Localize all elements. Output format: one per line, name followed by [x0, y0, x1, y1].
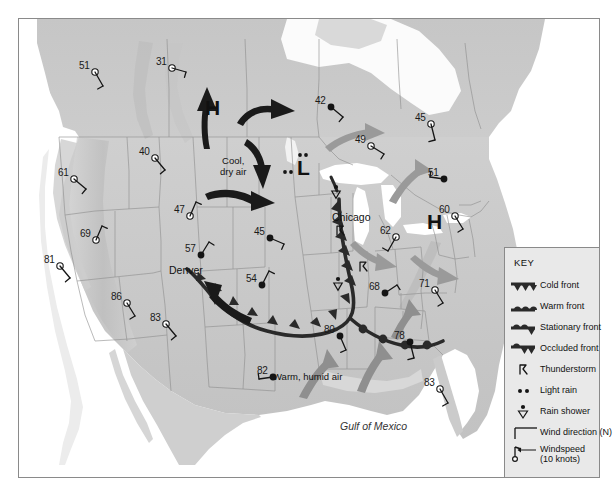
legend-label-line-1: Windspeed — [540, 444, 585, 454]
warm-pip — [514, 307, 521, 311]
legend-label-line-1: Wind direction (N) — [540, 427, 612, 437]
legend-symbol-windspeed — [509, 446, 539, 462]
legend-label-line-1: Stationary front — [540, 322, 601, 332]
legend-label-warm-front: Warm front — [540, 301, 584, 311]
high-pressure-center-northwest: H — [205, 97, 220, 118]
legend-label-windspeed: Windspeed(10 knots) — [540, 444, 585, 464]
station-temperature: 81 — [44, 255, 55, 265]
station-temperature: 82 — [257, 366, 268, 376]
airmass-line-1: Cool, — [220, 156, 246, 167]
warm-pip — [522, 307, 529, 311]
legend-item-windspeed: Windspeed(10 knots) — [509, 446, 600, 462]
station-temperature: 49 — [355, 135, 366, 145]
legend-item-warm-front: Warm front — [509, 299, 600, 315]
legend-label-thunderstorm: Thunderstorm — [540, 364, 596, 374]
station-temperature: 51 — [79, 61, 90, 71]
legend-label-wind-direction: Wind direction (N) — [540, 427, 612, 437]
legend-label-line-1: Light rain — [540, 385, 577, 395]
cold-front-icon — [509, 278, 539, 294]
station-temperature: 68 — [369, 282, 380, 292]
airmass-line-2: dry air — [220, 167, 246, 178]
cold-pip — [530, 285, 537, 291]
station-temperature: 86 — [111, 292, 122, 302]
legend-symbol-light-rain — [509, 383, 539, 399]
legend-item-wind-direction: Wind direction (N) — [509, 425, 600, 441]
city-label-denver: Denver — [169, 265, 203, 276]
legend-label-line-1: Rain shower — [540, 406, 590, 416]
warm-pip — [513, 325, 520, 329]
station-temperature: 51 — [428, 168, 439, 178]
cool-dry-air-label: Cool,dry air — [220, 156, 246, 177]
legend-label-line-1: Warm front — [540, 301, 584, 311]
station-temperature: 80 — [324, 325, 335, 335]
stationary-front-icon — [509, 320, 539, 336]
shower-dot — [334, 185, 338, 189]
legend-symbol-stationary-front — [509, 320, 539, 336]
low-pressure-center-midwest: L — [297, 157, 310, 178]
legend-label-rain-shower: Rain shower — [540, 406, 590, 416]
airmass-line-1: Warm, humid air — [273, 372, 342, 383]
legend-label-occluded-front: Occluded front — [540, 343, 599, 353]
cold-pip — [522, 285, 529, 291]
legend-label-light-rain: Light rain — [540, 385, 577, 395]
rain-dot-right — [525, 389, 529, 393]
legend-symbol-occluded-front — [509, 341, 539, 357]
station-temperature: 61 — [58, 168, 69, 178]
thunderstorm-glyph — [520, 365, 527, 374]
legend-item-stationary-front: Stationary front — [509, 320, 600, 336]
legend-symbol-cold-front — [509, 278, 539, 294]
station-temperature: 57 — [185, 244, 196, 254]
high-pressure-center-northeast: H — [427, 211, 442, 232]
warm-pip — [521, 325, 528, 329]
station-temperature: 83 — [150, 313, 161, 323]
station-temperature: 47 — [174, 205, 185, 215]
wind-direction-icon — [509, 425, 539, 441]
legend-item-thunderstorm: Thunderstorm — [509, 362, 600, 378]
rain-dot-right — [289, 170, 293, 174]
rain-dot-left — [283, 170, 287, 174]
cold-pip — [514, 285, 521, 291]
station-temperature: 42 — [315, 96, 326, 106]
legend-label-stationary-front: Stationary front — [540, 322, 601, 332]
light-rain-icon — [509, 383, 539, 399]
warm-front-icon — [509, 299, 539, 315]
legend-item-occluded-front: Occluded front — [509, 341, 600, 357]
cold-pip — [521, 348, 528, 354]
shower-dot — [336, 277, 340, 281]
rain-shower-icon — [509, 404, 539, 420]
legend-label-line-2: (10 knots) — [540, 454, 585, 464]
weather-map-page: 5131424540495161476062456957815471688683… — [0, 0, 616, 494]
station-temperature: 78 — [394, 331, 405, 341]
station-temperature: 83 — [424, 378, 435, 388]
occluded-front-icon — [509, 341, 539, 357]
city-label-chicago: Chicago — [332, 212, 371, 223]
thunderstorm-icon — [509, 362, 539, 378]
warm-pip — [513, 344, 520, 348]
legend-symbol-warm-front — [509, 299, 539, 315]
warm-humid-air-label: Warm, humid air — [273, 372, 342, 383]
station-temperature: 54 — [246, 274, 257, 284]
warm-pip — [530, 307, 537, 310]
legend-label-line-1: Thunderstorm — [540, 364, 596, 374]
station-temperature: 45 — [415, 113, 426, 123]
station-circle-open — [513, 457, 518, 462]
legend-item-cold-front: Cold front — [509, 278, 600, 294]
legend-label-line-1: Occluded front — [540, 343, 599, 353]
shower-dot — [521, 405, 525, 409]
station-temperature: 69 — [80, 229, 91, 239]
legend-symbol-wind-direction — [509, 425, 539, 441]
station-temperature: 31 — [156, 57, 167, 67]
legend-symbol-thunderstorm — [509, 362, 539, 378]
legend-label-line-1: Cold front — [540, 280, 579, 290]
windspeed-icon — [509, 446, 539, 462]
rain-dot-left — [518, 389, 522, 393]
legend-panel: KEY Cold frontWarm frontStationary front… — [504, 247, 599, 477]
legend-item-rain-shower: Rain shower — [509, 404, 600, 420]
legend-label-cold-front: Cold front — [540, 280, 579, 290]
legend-item-light-rain: Light rain — [509, 383, 600, 399]
station-temperature: 71 — [419, 279, 430, 289]
ocean-label-gulf-of-mexico: Gulf of Mexico — [340, 421, 407, 432]
cold-pip — [528, 348, 535, 354]
station-temperature: 40 — [139, 147, 150, 157]
shower-triangle — [519, 411, 528, 418]
